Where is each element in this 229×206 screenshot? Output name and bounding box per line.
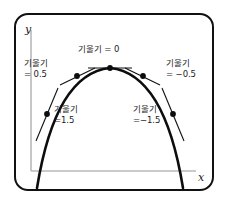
- tangency-point-right-gentle: [140, 73, 146, 79]
- slope-label-left-gentle-line1: 기울기: [24, 58, 48, 69]
- slope-label-vertex-line1: 기울기 = 0: [78, 44, 119, 55]
- slope-label-left-steep: 기울기 =1.5: [54, 104, 78, 126]
- tangency-point-vertex: [107, 65, 113, 71]
- slope-label-right-gentle-line2: = −0.5: [166, 69, 196, 80]
- x-axis-label: x: [198, 172, 204, 183]
- slope-label-left-gentle-line2: = 0.5: [24, 69, 48, 80]
- tangency-point-right-steep: [170, 111, 176, 117]
- slope-label-right-steep-line1: 기울기: [133, 104, 160, 115]
- slope-label-right-gentle-line1: 기울기: [166, 58, 196, 69]
- slope-label-left-steep-line1: 기울기: [54, 104, 78, 115]
- tangency-point-left-gentle: [74, 73, 80, 79]
- slope-label-right-steep-line2: =−1.5: [133, 115, 160, 126]
- slope-label-left-steep-line2: =1.5: [54, 115, 78, 126]
- tangency-point-left-steep: [44, 111, 50, 117]
- figure-container: y x 기울기 = 0 기울기 = 0.5 기울기 = −0.5 기울기 =1.…: [0, 0, 229, 206]
- y-axis-label: y: [25, 24, 31, 35]
- slope-label-right-steep: 기울기 =−1.5: [133, 104, 160, 126]
- parabola-curve: [37, 68, 183, 188]
- tangent-slope-plot: [0, 0, 229, 206]
- slope-label-vertex: 기울기 = 0: [78, 44, 119, 55]
- slope-label-left-gentle: 기울기 = 0.5: [24, 58, 48, 80]
- slope-label-right-gentle: 기울기 = −0.5: [166, 58, 196, 80]
